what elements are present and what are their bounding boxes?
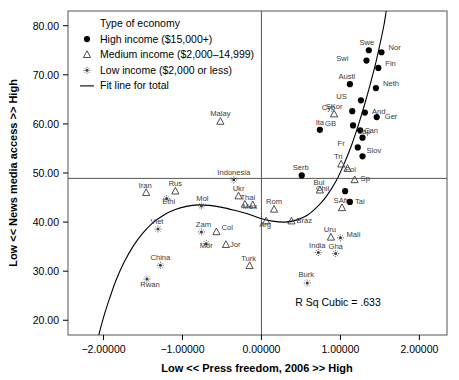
data-point-marker bbox=[155, 225, 162, 232]
data-point-label: India bbox=[309, 241, 326, 250]
data-point-label: SKor bbox=[326, 102, 343, 111]
legend-item[interactable]: Medium income ($2,000–14,999) bbox=[83, 48, 254, 60]
data-point-label: Swi bbox=[336, 54, 349, 63]
data-point-marker bbox=[363, 57, 369, 63]
data-point-label: Mali bbox=[346, 230, 360, 239]
data-point-label: Jor bbox=[230, 240, 241, 249]
data-point-marker bbox=[349, 108, 355, 114]
legend-item-label: Fit line for total bbox=[100, 79, 169, 91]
data-point-marker bbox=[342, 188, 348, 194]
data-point-label: Indonesia bbox=[217, 168, 251, 177]
data-point-label: Jap bbox=[358, 127, 370, 136]
data-point-marker bbox=[375, 65, 381, 71]
data-point-label: Braz bbox=[296, 216, 312, 225]
x-tick-label: 2.00000 bbox=[400, 343, 438, 355]
y-tick-label: 40.00 bbox=[33, 216, 59, 228]
data-point-marker bbox=[337, 234, 344, 241]
data-point-marker bbox=[358, 97, 364, 103]
data-point-label: SAfr bbox=[334, 196, 349, 205]
data-point-label: Iran bbox=[139, 181, 152, 190]
chart-canvas: 80.0070.0060.0050.0040.0030.0020.00 −2.0… bbox=[0, 0, 459, 380]
data-point-marker bbox=[317, 127, 323, 133]
legend-title: Type of economy bbox=[100, 17, 181, 29]
y-tick-label: 80.00 bbox=[33, 20, 59, 32]
data-point-label: Fr bbox=[338, 139, 346, 148]
scatter-plot-figure: 80.0070.0060.0050.0040.0030.0020.00 −2.0… bbox=[0, 0, 459, 380]
data-point-marker bbox=[350, 122, 356, 128]
data-point-label: Slov bbox=[367, 146, 382, 155]
data-point-label: Mex bbox=[243, 202, 258, 211]
data-point-marker bbox=[373, 85, 379, 91]
high-income-marker bbox=[84, 36, 90, 42]
x-tick-label: −1.00000 bbox=[160, 343, 204, 355]
y-tick-label: 30.00 bbox=[33, 265, 59, 277]
data-point-label: Fin bbox=[385, 59, 396, 68]
data-point-marker bbox=[359, 153, 365, 159]
data-point-marker bbox=[366, 47, 372, 53]
data-point-label: Col bbox=[221, 223, 233, 232]
data-point-marker bbox=[299, 172, 305, 178]
data-point-label: Austl bbox=[338, 72, 355, 81]
r-squared-annotation: R Sq Cubic = .633 bbox=[295, 296, 381, 308]
data-point-label: Rwan bbox=[140, 280, 159, 289]
data-point-marker bbox=[198, 228, 205, 235]
data-point-label: And bbox=[372, 107, 386, 116]
legend-item[interactable]: Low income ($2,000 or less) bbox=[84, 64, 232, 76]
data-point-label: Ethi bbox=[162, 197, 175, 206]
data-point-label: Nor bbox=[388, 43, 401, 52]
low-income-marker bbox=[84, 67, 91, 74]
legend-item[interactable]: High income ($15,000+) bbox=[84, 33, 212, 45]
data-point-marker bbox=[157, 262, 164, 269]
legend-item-label: High income ($15,000+) bbox=[100, 33, 212, 45]
data-point-marker bbox=[230, 176, 237, 183]
data-point-label: Rom bbox=[266, 197, 282, 206]
data-point-label: Mol bbox=[196, 194, 209, 203]
y-tick-label: 60.00 bbox=[33, 118, 59, 130]
data-point-label: Tai bbox=[355, 197, 365, 206]
data-point-label: China bbox=[150, 253, 171, 262]
x-axis-title: Low << Press freedom, 2006 >> High bbox=[161, 362, 353, 374]
y-tick-label: 50.00 bbox=[33, 167, 59, 179]
data-point-label: Rus bbox=[169, 179, 183, 188]
x-tick-label: −2.00000 bbox=[81, 343, 125, 355]
data-point-label: Serb bbox=[293, 163, 309, 172]
x-tick-label: 0.00000 bbox=[242, 343, 280, 355]
data-point-label: Pol bbox=[345, 165, 356, 174]
data-point-label: Ukr bbox=[233, 184, 245, 193]
data-point-marker bbox=[378, 49, 384, 55]
data-point-marker bbox=[304, 279, 311, 286]
data-point-label: Neth bbox=[383, 79, 399, 88]
data-point-label: Mor bbox=[200, 241, 214, 250]
data-point-label: Swe bbox=[359, 38, 374, 47]
data-point-marker bbox=[347, 81, 353, 87]
data-point-label: US bbox=[336, 92, 347, 101]
data-point-label: Sp bbox=[361, 174, 370, 183]
data-point-label: Viet bbox=[151, 217, 165, 226]
data-point-label: Ger bbox=[385, 112, 398, 121]
y-tick-label: 70.00 bbox=[33, 69, 59, 81]
y-axis-title: Low << News media access >> High bbox=[7, 79, 19, 267]
y-tick-label: 20.00 bbox=[33, 314, 59, 326]
data-point-marker bbox=[332, 250, 339, 257]
data-point-label: Malay bbox=[210, 109, 230, 118]
data-point-marker bbox=[362, 110, 368, 116]
data-point-label: Arg bbox=[259, 220, 271, 229]
data-point-label: GB bbox=[325, 119, 336, 128]
data-point-label: Gha bbox=[328, 242, 343, 251]
data-point-marker bbox=[198, 202, 205, 209]
data-point-label: Zam bbox=[196, 220, 211, 229]
data-point-label: Turk bbox=[241, 254, 256, 263]
data-point-label: Bul bbox=[313, 178, 324, 187]
x-tick-label: 1.00000 bbox=[321, 343, 359, 355]
data-point-marker bbox=[355, 144, 361, 150]
data-point-label: Uru bbox=[324, 225, 336, 234]
data-point-marker bbox=[315, 249, 322, 256]
data-point-label: Ita bbox=[316, 118, 325, 127]
legend-item-label: Medium income ($2,000–14,999) bbox=[100, 48, 254, 60]
data-point-label: Tri bbox=[334, 152, 343, 161]
data-point-label: Burk bbox=[298, 270, 314, 279]
legend-item-label: Low income ($2,000 or less) bbox=[100, 64, 232, 76]
